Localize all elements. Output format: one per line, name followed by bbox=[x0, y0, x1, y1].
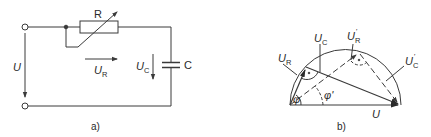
phi-label: φ bbox=[293, 93, 300, 105]
resistor-voltage-main: U bbox=[94, 64, 102, 76]
uc-prime-phasor bbox=[360, 54, 397, 102]
bottom-terminal-icon bbox=[22, 103, 28, 109]
total-voltage-label: U bbox=[372, 108, 380, 120]
ur-prime-leader bbox=[351, 44, 353, 60]
ur-main: U bbox=[278, 52, 286, 64]
capacitor-voltage-label: UC bbox=[136, 60, 150, 75]
wiper-wire bbox=[66, 27, 78, 47]
locus-semicircle bbox=[290, 50, 401, 105]
uc-prime-sub: C bbox=[413, 61, 419, 70]
uc-prime-label: UC' bbox=[405, 52, 419, 70]
capacitor-voltage-sub: C bbox=[144, 66, 150, 75]
uc-prime-main: U bbox=[405, 55, 413, 67]
figure-canvas: R U UR UC C a) UR UC UR' UC' φ φ' U bbox=[0, 0, 431, 137]
capacitor-voltage-main: U bbox=[136, 60, 144, 72]
resistor-label: R bbox=[94, 8, 102, 20]
uc-sub: C bbox=[322, 38, 328, 47]
ur-prime-sub: R bbox=[355, 36, 361, 45]
ur-prime-main: U bbox=[347, 30, 355, 42]
phasor-diagram-b bbox=[283, 44, 404, 105]
capacitor-label: C bbox=[184, 59, 192, 71]
ur-sub: R bbox=[286, 58, 292, 67]
uc-main: U bbox=[314, 32, 322, 44]
right-angle-dot-dashed bbox=[358, 59, 360, 61]
right-angle-mark-dashed bbox=[351, 61, 366, 65]
top-terminal-icon bbox=[22, 24, 28, 30]
caption-a: a) bbox=[91, 121, 100, 132]
phi-prime-angle-arc bbox=[315, 86, 323, 105]
caption-b: b) bbox=[337, 121, 346, 132]
uc-label: UC bbox=[314, 32, 328, 47]
right-angle-dot-solid bbox=[308, 72, 310, 74]
ur-prime-mark: ' bbox=[355, 27, 357, 36]
source-voltage-label: U bbox=[13, 61, 21, 73]
phi-prime-label: φ' bbox=[324, 89, 334, 101]
resistor-voltage-sub: R bbox=[102, 70, 108, 79]
ur-label: UR bbox=[278, 52, 292, 67]
uc-prime-mark: ' bbox=[413, 52, 415, 61]
circuit-diagram-a bbox=[22, 12, 180, 109]
variable-resistor-icon bbox=[80, 21, 118, 33]
ur-prime-label: UR' bbox=[347, 27, 361, 45]
resistor-voltage-label: UR bbox=[94, 64, 108, 79]
